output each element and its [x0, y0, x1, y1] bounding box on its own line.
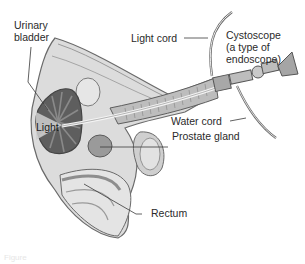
- label-prostate-gland: Prostate gland: [172, 130, 240, 142]
- label-urinary-bladder: Urinary bladder: [14, 19, 49, 43]
- prostate-gland: [88, 135, 112, 157]
- label-light: Light: [36, 121, 59, 133]
- label-cystoscope: Cystoscope (a type of endoscope): [226, 29, 281, 65]
- figure-caption-faint: Figure: [4, 253, 27, 262]
- label-cystoscope-line3: endoscope): [226, 53, 281, 65]
- label-urinary-bladder-line1: Urinary: [14, 19, 49, 31]
- water-cord: [237, 86, 276, 138]
- label-cystoscope-line2: (a type of: [226, 41, 281, 53]
- scrotum: [133, 132, 164, 176]
- label-rectum: Rectum: [151, 207, 187, 219]
- label-water-cord: Water cord: [171, 115, 222, 127]
- label-cystoscope-line1: Cystoscope: [226, 29, 281, 41]
- label-urinary-bladder-line2: bladder: [14, 31, 49, 43]
- label-light-cord: Light cord: [131, 32, 177, 44]
- rectum: [60, 169, 131, 236]
